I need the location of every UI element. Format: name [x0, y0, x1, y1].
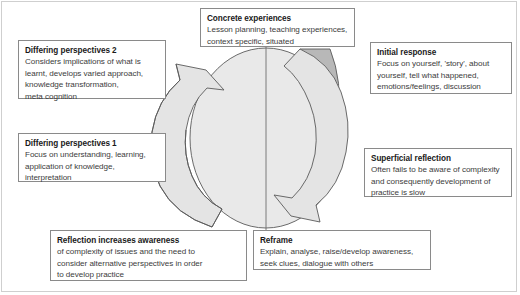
note-body: Often fails to be aware of complexity an…: [371, 164, 505, 198]
note-body: Focus on understanding, learning, applic…: [25, 149, 159, 183]
note-body: Focus on yourself, 'story', about yourse…: [377, 58, 505, 92]
note-line: consider alternative perspectives in ord…: [57, 258, 240, 269]
note-line: to develop practice: [57, 269, 240, 280]
note-body: Explain, analyse, raise/develop awarenes…: [260, 246, 424, 269]
note-body: Lesson planning, teaching experiences, c…: [207, 24, 348, 47]
note-title: Differing perspectives 1: [25, 138, 159, 149]
diagram-canvas: Differing perspectives 2 Considers impli…: [0, 0, 520, 295]
note-line: knowledge transformation,: [25, 79, 159, 90]
note-line: meta cognition: [25, 91, 159, 102]
note-line: context specific, situated: [207, 36, 348, 47]
note-line: emotions/feelings, discussion: [377, 81, 505, 92]
note-line: Explain, analyse, raise/develop awarenes…: [260, 246, 424, 257]
note-concrete-experiences: Concrete experiences Lesson planning, te…: [200, 8, 355, 47]
note-line: Focus on understanding, learning,: [25, 149, 159, 160]
note-reflection-increases-awareness: Reflection increases awareness of comple…: [50, 230, 247, 281]
note-title: Reflection increases awareness: [57, 235, 240, 246]
note-line: Lesson planning, teaching experiences,: [207, 24, 348, 35]
note-body: Considers implications of what is learnt…: [25, 56, 159, 102]
note-line: Often fails to be aware of complexity: [371, 164, 505, 175]
note-line: seek clues, dialogue with others: [260, 258, 424, 269]
note-body: of complexity of issues and the need to …: [57, 246, 240, 280]
note-line: interpretation: [25, 172, 159, 183]
note-line: of complexity of issues and the need to: [57, 246, 240, 257]
note-title: Superficial reflection: [371, 153, 505, 164]
note-title: Initial response: [377, 47, 505, 58]
note-title: Concrete experiences: [207, 13, 348, 24]
note-superficial-reflection: Superficial reflection Often fails to be…: [364, 148, 512, 197]
note-line: yourself, tell what happened,: [377, 70, 505, 81]
note-line: learnt, develops varied approach,: [25, 68, 159, 79]
note-differing-perspectives-2: Differing perspectives 2 Considers impli…: [18, 40, 166, 99]
note-line: Focus on yourself, 'story', about: [377, 58, 505, 69]
note-line: Considers implications of what is: [25, 56, 159, 67]
note-title: Reframe: [260, 235, 424, 246]
note-reframe: Reframe Explain, analyse, raise/develop …: [253, 230, 431, 270]
note-title: Differing perspectives 2: [25, 45, 159, 56]
note-line: application of knowledge,: [25, 161, 159, 172]
note-differing-perspectives-1: Differing perspectives 1 Focus on unders…: [18, 133, 166, 182]
note-initial-response: Initial response Focus on yourself, 'sto…: [370, 42, 512, 94]
note-line: practice is slow: [371, 187, 505, 198]
note-line: and consequently development of: [371, 176, 505, 187]
